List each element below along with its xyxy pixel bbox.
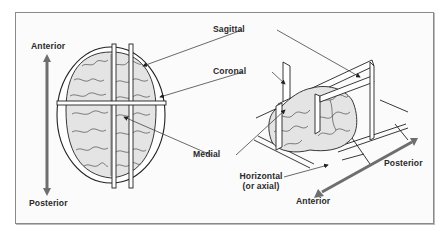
label-sagittal: Sagittal	[213, 24, 245, 34]
anterior-posterior-arrow	[43, 54, 51, 196]
label-medial: Medial	[193, 149, 220, 159]
label-coronal: Coronal	[213, 66, 246, 76]
label-horizontal: Horizontal (or axial)	[232, 171, 290, 191]
brain-top-view	[57, 47, 165, 183]
label-posterior-left: Posterior	[29, 198, 68, 208]
label-posterior-right: Posterior	[384, 158, 423, 168]
label-anterior-left: Anterior	[31, 41, 65, 51]
label-horizontal-line1: Horizontal	[232, 171, 290, 181]
label-anterior-right: Anterior	[296, 196, 330, 206]
label-horizontal-line2: (or axial)	[232, 181, 290, 191]
